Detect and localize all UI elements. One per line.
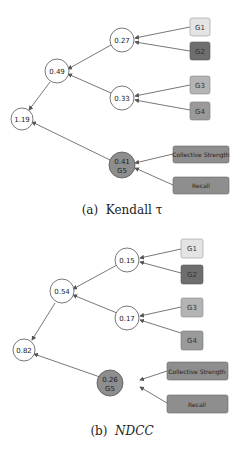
box-collective-strength-label: Collective Strength [168,368,226,376]
box-recall: Recall [173,177,229,194]
box-recall-label: Recall [192,182,210,189]
box-collective-strength: Collective Strength [172,146,230,163]
node-root-value: 1.19 [14,116,30,124]
node-g3g4-value: 0.17 [119,315,135,323]
caption-b-text: NDCC [115,424,153,438]
node-g1g2-value: 0.27 [114,37,130,45]
box-g3: G3 [190,76,210,94]
diagram-b: G1 G2 G3 G4 0.15 0.17 0.54 0.82 [13,239,228,413]
box-g1-label: G1 [187,245,197,253]
caption-b: (b) NDCC [0,424,244,438]
caption-b-label: (b) [90,424,107,438]
caption-a-label: (a) [82,203,99,217]
node-g1g2: 0.27 [110,28,134,52]
box-g3-label: G3 [195,82,205,90]
node-g3g4-value: 0.33 [114,95,130,103]
caption-a-text: Kendall τ [106,203,162,217]
node-g1g2-value: 0.15 [119,257,135,265]
box-g4-label: G4 [195,108,205,116]
node-g1-g4: 0.54 [50,279,74,303]
node-g1-g4-value: 0.54 [54,288,70,296]
node-root-value: 0.82 [16,347,32,355]
box-g2: G2 [181,265,203,284]
box-g3-label: G3 [187,304,197,312]
node-g3g4: 0.33 [110,86,134,110]
box-recall: Recall [167,395,228,413]
box-collective-strength-label: Collective Strength [172,151,230,159]
box-g4: G4 [190,102,210,120]
node-root: 0.82 [13,339,35,361]
node-g1-g4: 0.49 [45,59,69,83]
caption-a: (a) Kendall τ [0,203,244,217]
node-g5-value: 0.26 [102,376,118,384]
node-g1-g4-value: 0.49 [49,68,65,76]
diagram-a: G1 G2 G3 G4 0.27 0.33 0.49 1.19 [11,18,230,194]
box-g2: G2 [190,42,210,60]
box-g3: G3 [181,298,203,317]
box-g1: G1 [181,239,203,258]
box-g4: G4 [181,331,203,350]
node-g1g2: 0.15 [115,248,139,272]
box-g2-label: G2 [195,48,205,56]
box-g1: G1 [190,18,210,36]
box-g2-label: G2 [187,271,197,279]
node-g5-label: G5 [105,385,115,393]
box-collective-strength: Collective Strength [167,362,228,380]
node-g3g4: 0.17 [115,306,139,330]
node-g5-label: G5 [117,167,127,175]
node-g5-value: 0.41 [114,158,130,166]
box-g1-label: G1 [195,24,205,32]
node-root: 1.19 [11,108,33,130]
box-recall-label: Recall [188,401,206,408]
diagram-canvas: G1 G2 G3 G4 0.27 0.33 0.49 1.19 [0,0,244,453]
box-g4-label: G4 [187,337,197,345]
